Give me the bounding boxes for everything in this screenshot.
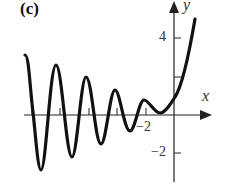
chart-canvas [0, 0, 227, 185]
y-tick-label-4: 4 [159, 29, 166, 45]
function-curve [25, 19, 195, 170]
x-axis-label: x [202, 87, 209, 105]
x-tick-label-neg2: −2 [136, 119, 151, 135]
y-tick-label-neg2: −2 [151, 144, 166, 160]
y-axis-arrow-icon [169, 1, 179, 13]
y-axis-label: y [183, 0, 190, 14]
panel-label: (c) [20, 0, 39, 19]
x-axis-arrow-icon [200, 110, 212, 120]
